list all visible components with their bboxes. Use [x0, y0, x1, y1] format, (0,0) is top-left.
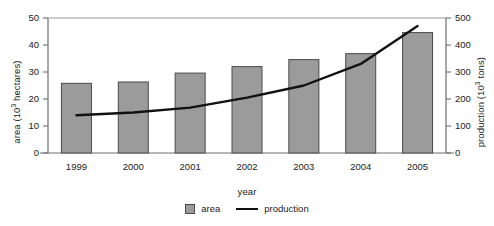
legend-label-production: production	[264, 203, 308, 214]
legend-line-icon	[236, 208, 258, 210]
bar-2002	[232, 67, 262, 153]
x-axis-title: year	[0, 186, 494, 197]
y-axis-right-title-prefix: production (10	[475, 85, 486, 147]
legend-item-production: production	[236, 203, 308, 214]
y-axis-left-title-prefix: area (10	[11, 108, 22, 144]
y-axis-right-title-exponent: 3	[474, 81, 481, 85]
right-axis-ticks	[446, 18, 451, 153]
chart-legend: area production	[0, 203, 494, 214]
chart-figure: 50 40 30 20 10 0 500 400 300 200 100 0 1…	[0, 0, 494, 226]
bar-2000	[118, 82, 148, 153]
ytick-left-50: 50	[0, 12, 39, 23]
xtick-1999: 1999	[46, 161, 106, 172]
legend-item-area: area	[185, 203, 220, 214]
y-axis-left-title-suffix: hectares)	[11, 60, 22, 103]
bar-1999	[61, 83, 91, 153]
bar-series-area	[61, 33, 432, 153]
legend-square-icon	[185, 204, 195, 214]
xtick-2003: 2003	[274, 161, 334, 172]
y-axis-left-title: area (103 hectares)	[10, 42, 22, 162]
xtick-2000: 2000	[103, 161, 163, 172]
legend-label-area: area	[201, 203, 220, 214]
y-axis-right-title-suffix: tons)	[475, 57, 486, 81]
y-axis-right-title: production (103 tons)	[474, 42, 486, 162]
bar-2005	[403, 33, 433, 153]
ytick-right-500: 500	[455, 12, 494, 23]
bar-2003	[289, 60, 319, 153]
xtick-2005: 2005	[388, 161, 448, 172]
bar-2001	[175, 73, 205, 153]
xtick-2004: 2004	[331, 161, 391, 172]
xtick-2002: 2002	[217, 161, 277, 172]
y-axis-left-title-exponent: 3	[10, 104, 17, 108]
left-axis-ticks	[43, 18, 48, 153]
xtick-2001: 2001	[160, 161, 220, 172]
